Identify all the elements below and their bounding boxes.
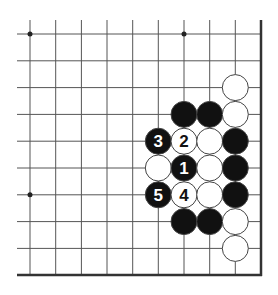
stone-disc <box>222 235 248 261</box>
white-stone <box>145 155 171 181</box>
white-stone <box>222 235 248 261</box>
white-stone <box>222 75 248 101</box>
stone-disc <box>197 182 223 208</box>
go-board: 32154 <box>0 0 278 295</box>
stone-disc <box>222 209 248 235</box>
move-number-label: 5 <box>154 186 163 205</box>
black-stone <box>222 155 248 181</box>
stone-disc <box>222 128 248 154</box>
star-point <box>182 32 187 37</box>
stone-disc <box>145 155 171 181</box>
white-stone <box>222 209 248 235</box>
move-number-label: 4 <box>179 186 189 205</box>
white-stone <box>222 101 248 127</box>
black-stone: 3 <box>145 128 171 154</box>
black-stone <box>222 128 248 154</box>
black-stone <box>197 209 223 235</box>
black-stone <box>171 209 197 235</box>
stone-disc <box>222 182 248 208</box>
stone-disc <box>222 155 248 181</box>
stone-disc <box>171 209 197 235</box>
stone-disc <box>197 155 223 181</box>
star-point <box>28 32 33 37</box>
star-point <box>28 192 33 197</box>
black-stone: 1 <box>171 155 197 181</box>
white-stone <box>197 182 223 208</box>
white-stone: 4 <box>171 182 197 208</box>
stone-disc <box>197 128 223 154</box>
stones: 32154 <box>145 75 248 262</box>
black-stone: 5 <box>145 182 171 208</box>
stone-disc <box>197 101 223 127</box>
stone-disc <box>197 209 223 235</box>
move-number-label: 1 <box>179 159 188 178</box>
stone-disc <box>171 101 197 127</box>
black-stone <box>197 101 223 127</box>
black-stone <box>171 101 197 127</box>
white-stone: 2 <box>171 128 197 154</box>
stone-disc <box>222 101 248 127</box>
move-number-label: 3 <box>154 132 163 151</box>
stone-disc <box>222 75 248 101</box>
white-stone <box>197 128 223 154</box>
black-stone <box>222 182 248 208</box>
move-number-label: 2 <box>179 132 188 151</box>
white-stone <box>197 155 223 181</box>
